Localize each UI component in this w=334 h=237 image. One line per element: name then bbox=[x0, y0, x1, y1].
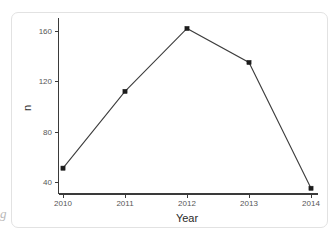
y-tick-label-120: 120 bbox=[39, 77, 53, 86]
x-tick-label-2010: 2010 bbox=[54, 199, 72, 208]
data-point-2011 bbox=[123, 89, 127, 93]
x-tick-label-2012: 2012 bbox=[178, 199, 196, 208]
data-point-2013 bbox=[247, 60, 251, 64]
series-markers bbox=[61, 26, 313, 190]
data-point-2012 bbox=[185, 26, 189, 30]
series-line-n bbox=[63, 28, 311, 188]
x-axis-title: Year bbox=[176, 212, 199, 224]
x-tick-label-2013: 2013 bbox=[240, 199, 258, 208]
x-tick-label-2011: 2011 bbox=[116, 199, 134, 208]
y-tick-label-80: 80 bbox=[43, 128, 52, 137]
data-point-2014 bbox=[309, 186, 313, 190]
y-tick-label-40: 40 bbox=[43, 178, 52, 187]
x-tick-label-2014: 2014 bbox=[302, 199, 320, 208]
y-axis-tick-labels: 160 120 80 40 bbox=[39, 27, 53, 187]
x-axis-tick-labels: 2010 2011 2012 2013 2014 bbox=[54, 199, 320, 208]
chart-canvas: 160 120 80 40 2010 2011 2012 20 bbox=[0, 0, 334, 237]
y-axis-title: n bbox=[21, 105, 33, 111]
line-chart: 160 120 80 40 2010 2011 2012 20 bbox=[0, 0, 334, 237]
data-point-2010 bbox=[61, 166, 65, 170]
y-tick-label-160: 160 bbox=[39, 27, 53, 36]
